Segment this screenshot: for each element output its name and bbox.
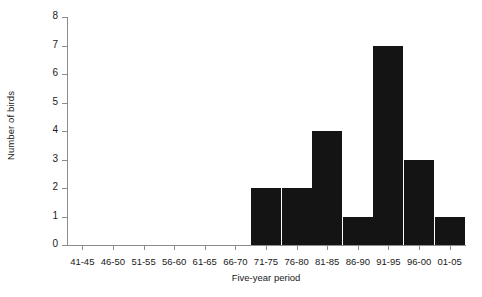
x-tick-mark	[388, 246, 389, 250]
x-tick-mark	[297, 246, 298, 250]
x-tick-mark	[450, 246, 451, 250]
y-tick-label: 2	[52, 181, 58, 193]
y-tick-mark	[62, 188, 67, 189]
y-axis-title-text: Number of birds	[6, 90, 17, 159]
y-axis-line	[67, 17, 68, 246]
bar	[251, 188, 281, 245]
x-tick-mark	[113, 246, 114, 250]
bar	[282, 188, 312, 245]
y-axis-title: Number of birds	[0, 0, 22, 250]
y-tick-label: 7	[52, 39, 58, 51]
x-tick-mark	[144, 246, 145, 250]
y-tick-label: 4	[52, 124, 58, 136]
x-tick-mark	[419, 246, 420, 250]
x-tick-mark	[205, 246, 206, 250]
y-tick-mark	[62, 74, 67, 75]
x-tick-mark	[358, 246, 359, 250]
y-tick-label: 5	[52, 96, 58, 108]
bar	[435, 217, 465, 246]
y-tick-mark	[62, 245, 67, 246]
y-tick-label: 1	[52, 210, 58, 222]
y-tick-mark	[62, 103, 67, 104]
y-tick-mark	[62, 160, 67, 161]
bar	[373, 46, 403, 246]
x-tick-mark	[174, 246, 175, 250]
y-tick-label: 0	[52, 238, 58, 250]
x-tick-mark	[327, 246, 328, 250]
y-tick-label: 6	[52, 67, 58, 79]
bar	[312, 131, 342, 245]
x-tick-label: 01-05	[420, 256, 480, 268]
x-tick-mark	[266, 246, 267, 250]
bar-chart: Number of birds 012345678 41-4546-5051-5…	[0, 0, 482, 297]
bar	[404, 160, 434, 246]
x-axis-title: Five-year period	[67, 272, 465, 283]
x-tick-mark	[82, 246, 83, 250]
y-tick-mark	[62, 17, 67, 18]
y-tick-mark	[62, 131, 67, 132]
x-tick-mark	[235, 246, 236, 250]
y-tick-mark	[62, 217, 67, 218]
y-tick-label: 8	[52, 10, 58, 22]
bar	[343, 217, 373, 246]
y-tick-mark	[62, 46, 67, 47]
y-tick-label: 3	[52, 153, 58, 165]
plot-area: 012345678 41-4546-5051-5556-6061-6566-70…	[67, 17, 465, 245]
